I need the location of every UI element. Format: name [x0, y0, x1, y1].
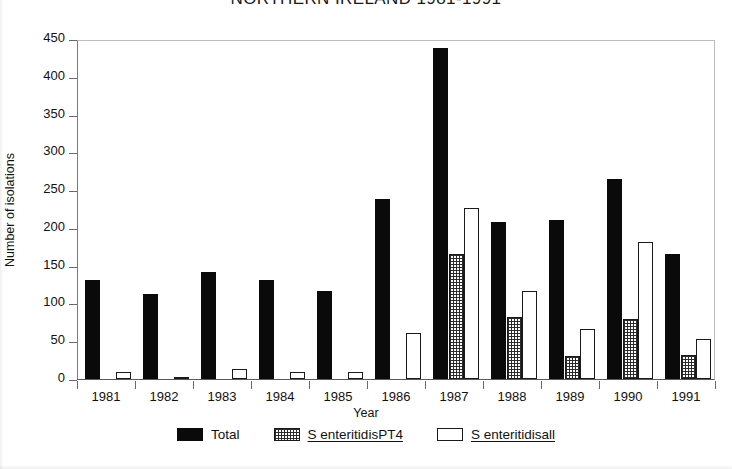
x-tick-mark	[541, 381, 542, 389]
x-tick-mark	[425, 381, 426, 389]
y-tick-mark	[69, 267, 77, 268]
bar	[580, 329, 595, 379]
bar	[665, 254, 680, 379]
y-tick-label: 150	[43, 258, 65, 271]
x-axis-title: Year	[0, 406, 732, 420]
y-tick-mark	[69, 116, 77, 117]
x-tick-label: 1981	[77, 389, 135, 404]
bar	[174, 377, 189, 379]
bar	[491, 222, 506, 379]
bar	[607, 179, 622, 379]
x-tick-label: 1986	[367, 389, 425, 404]
x-tick-label: 1983	[193, 389, 251, 404]
y-tick-label: 250	[43, 182, 65, 195]
chart-legend: TotalS enteritidisPT4S enteritidisall	[0, 427, 732, 442]
x-tick-label: 1982	[135, 389, 193, 404]
x-tick-label: 1987	[425, 389, 483, 404]
bars-layer	[78, 41, 714, 379]
x-tick-label: 1990	[599, 389, 657, 404]
legend-item: Total	[177, 427, 240, 442]
y-tick-label: 0	[58, 371, 65, 384]
legend-swatch	[274, 428, 300, 441]
y-tick-mark	[69, 153, 77, 154]
bar	[565, 356, 580, 379]
x-tick-mark	[251, 381, 252, 389]
legend-swatch	[177, 428, 203, 441]
y-tick-label: 400	[43, 69, 65, 82]
bar	[464, 208, 479, 380]
x-tick-label: 1989	[541, 389, 599, 404]
legend-label: S enteritidisall	[471, 427, 555, 442]
bar	[232, 369, 247, 379]
bar	[623, 319, 638, 379]
y-tick-mark	[69, 380, 77, 381]
legend-label: Total	[211, 427, 240, 442]
y-tick-label: 200	[43, 220, 65, 233]
legend-item: S enteritidisall	[437, 427, 555, 442]
bar	[638, 242, 653, 380]
x-tick-mark	[77, 381, 78, 389]
bar	[317, 291, 332, 379]
x-tick-label: 1984	[251, 389, 309, 404]
bar	[696, 339, 711, 379]
x-tick-mark	[657, 381, 658, 389]
chart-title: NORTHERN IRELAND 1981-1991	[0, 0, 732, 9]
x-tick-label: 1988	[483, 389, 541, 404]
x-tick-label: 1985	[309, 389, 367, 404]
bar	[681, 355, 696, 379]
y-tick-mark	[69, 342, 77, 343]
bar	[522, 291, 537, 379]
legend-label: S enteritidisPT4	[308, 427, 403, 442]
x-tick-label: 1991	[657, 389, 715, 404]
bar-chart: NORTHERN IRELAND 1981-1991 Number of iso…	[0, 0, 732, 469]
x-tick-mark	[135, 381, 136, 389]
plot-area	[77, 40, 715, 380]
bar	[433, 48, 448, 379]
y-tick-label: 300	[43, 144, 65, 157]
bar	[449, 254, 464, 379]
x-tick-mark	[599, 381, 600, 389]
bar	[290, 372, 305, 379]
y-tick-label: 450	[43, 31, 65, 44]
x-tick-mark	[309, 381, 310, 389]
bar	[549, 220, 564, 379]
bar	[507, 317, 522, 379]
legend-swatch	[437, 428, 463, 441]
y-tick-label: 50	[51, 333, 65, 346]
bar	[143, 294, 158, 379]
bar	[348, 372, 363, 379]
y-tick-label: 350	[43, 107, 65, 120]
bar	[259, 280, 274, 379]
x-tick-mark	[193, 381, 194, 389]
x-tick-mark	[483, 381, 484, 389]
scan-edge-bottom	[0, 465, 732, 469]
bar	[201, 272, 216, 379]
y-tick-mark	[69, 229, 77, 230]
bar	[406, 333, 421, 379]
y-tick-mark	[69, 78, 77, 79]
y-tick-mark	[69, 304, 77, 305]
legend-item: S enteritidisPT4	[274, 427, 403, 442]
y-axis-title: Number of isolations	[3, 135, 17, 285]
bar	[85, 280, 100, 379]
y-tick-mark	[69, 40, 77, 41]
bar	[116, 372, 131, 379]
x-tick-mark	[367, 381, 368, 389]
y-tick-mark	[69, 191, 77, 192]
bar	[375, 199, 390, 379]
x-tick-mark	[715, 381, 716, 389]
y-tick-label: 100	[43, 295, 65, 308]
